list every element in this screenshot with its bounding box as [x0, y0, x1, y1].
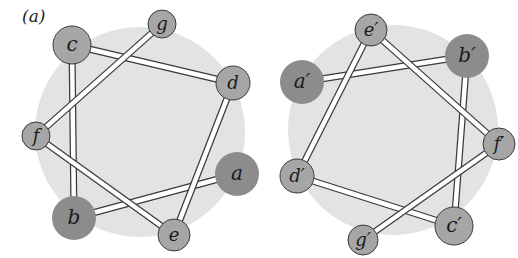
- residue-label: d: [227, 72, 239, 93]
- residue-node: b: [52, 196, 96, 240]
- bond-b-c: [72, 45, 74, 218]
- residue-label: f′: [492, 133, 505, 154]
- residue-label: g′: [355, 229, 371, 250]
- left-wheel: abcdefg: [22, 10, 259, 251]
- residue-node: g: [148, 10, 176, 38]
- residue-label: e′: [364, 19, 379, 40]
- residue-node: d′: [280, 159, 314, 193]
- residue-node: c′: [435, 207, 473, 245]
- residue-label: b: [68, 205, 81, 229]
- residue-node: b′: [445, 34, 489, 78]
- residue-node: e: [158, 219, 190, 251]
- residue-node: g′: [348, 225, 378, 255]
- residue-node: a: [215, 152, 259, 196]
- right-wheel: a′b′c′d′e′f′g′: [280, 14, 515, 255]
- panel-label: (a): [22, 6, 45, 26]
- residue-label: e: [169, 224, 180, 245]
- residue-node: d: [216, 66, 250, 100]
- residue-label: b′: [458, 43, 476, 67]
- residue-node: f′: [483, 128, 515, 160]
- residue-node: f: [22, 122, 50, 150]
- residue-label: d′: [289, 165, 305, 186]
- residue-node: a′: [280, 60, 324, 104]
- residue-label: c′: [446, 213, 462, 237]
- residue-label: a′: [294, 69, 311, 93]
- residue-label: a: [231, 161, 243, 185]
- residue-label: c: [66, 32, 77, 56]
- residue-node: e′: [355, 14, 387, 46]
- residue-node: c: [53, 26, 91, 64]
- helical-wheel-diagram: abcdefga′b′c′d′e′f′g′: [0, 0, 518, 258]
- residue-label: g: [156, 13, 168, 34]
